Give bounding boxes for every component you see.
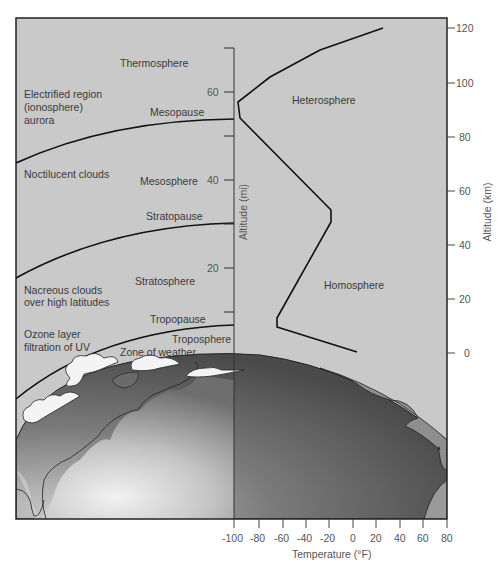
temp-tick: 40 bbox=[394, 532, 406, 544]
temp-tick: -20 bbox=[320, 532, 335, 544]
temp-tick: 0 bbox=[350, 532, 356, 544]
temp-tick: -80 bbox=[250, 532, 265, 544]
label-troposphere: Troposphere bbox=[172, 333, 231, 346]
temp-tick: -40 bbox=[297, 532, 312, 544]
temp-tick: 60 bbox=[417, 532, 429, 544]
km-tick-0: 0 bbox=[464, 347, 470, 359]
km-axis-title: Altitude (km) bbox=[481, 180, 493, 244]
temp-tick: 20 bbox=[370, 532, 382, 544]
km-tick-100: 100 bbox=[456, 77, 474, 89]
temp-tick: 80 bbox=[441, 532, 453, 544]
mi-tick-40: 40 bbox=[207, 174, 219, 186]
label-ozone-2: filtration of UV bbox=[24, 341, 90, 354]
km-tick-20: 20 bbox=[459, 293, 471, 305]
mi-axis-title: Altitude (mi) bbox=[237, 182, 249, 242]
label-zone-of-weather: Zone of weather bbox=[120, 346, 196, 359]
temp-tick: -60 bbox=[274, 532, 289, 544]
label-homosphere: Homosphere bbox=[324, 279, 384, 292]
km-tick-40: 40 bbox=[459, 239, 471, 251]
label-stratosphere: Stratosphere bbox=[135, 275, 195, 288]
label-thermosphere: Thermosphere bbox=[120, 57, 188, 70]
label-mesopause: Mesopause bbox=[150, 106, 204, 119]
temp-tick: -100 bbox=[222, 532, 243, 544]
label-stratopause: Stratopause bbox=[146, 210, 203, 223]
label-ozone-1: Ozone layer bbox=[24, 328, 81, 341]
km-tick-80: 80 bbox=[459, 131, 471, 143]
label-ionosphere-3: aurora bbox=[24, 114, 54, 127]
label-noctilucent: Noctilucent clouds bbox=[24, 168, 109, 181]
label-mesosphere: Mesosphere bbox=[140, 175, 198, 188]
label-nacreous-2: over high latitudes bbox=[24, 296, 109, 309]
label-ionosphere-1: Electrified region bbox=[24, 88, 102, 101]
label-tropopause: Tropopause bbox=[150, 313, 206, 326]
mi-tick-20: 20 bbox=[207, 262, 219, 274]
label-heterosphere: Heterosphere bbox=[292, 94, 356, 107]
km-axis-ticks bbox=[447, 28, 455, 353]
label-ionosphere-2: (ionosphere) bbox=[24, 101, 83, 114]
km-tick-60: 60 bbox=[459, 185, 471, 197]
temp-axis-ticks bbox=[234, 519, 447, 528]
km-tick-120: 120 bbox=[456, 22, 474, 34]
mi-tick-60: 60 bbox=[207, 86, 219, 98]
temp-axis-title: Temperature (°F) bbox=[292, 548, 371, 560]
